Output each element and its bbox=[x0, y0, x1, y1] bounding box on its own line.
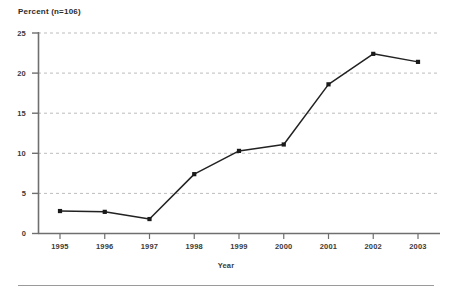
x-tick-label: 2000 bbox=[264, 242, 304, 251]
gridlines-group bbox=[38, 33, 440, 193]
data-point-marker bbox=[282, 142, 286, 146]
x-tick-label: 1999 bbox=[219, 242, 259, 251]
x-tick-label: 2001 bbox=[309, 242, 349, 251]
y-tick-label: 25 bbox=[4, 29, 26, 38]
y-tick-marks-group bbox=[32, 33, 39, 234]
y-tick-label: 10 bbox=[4, 149, 26, 158]
data-point-marker bbox=[147, 217, 151, 221]
x-tick-label: 1997 bbox=[130, 242, 170, 251]
data-point-marker bbox=[192, 172, 196, 176]
x-tick-label: 1995 bbox=[40, 242, 80, 251]
data-point-marker bbox=[416, 60, 420, 64]
data-point-marker bbox=[103, 210, 107, 214]
chart-figure: Percent (n=106) 0510152025 1995199619971… bbox=[0, 0, 452, 297]
data-point-marker bbox=[237, 149, 241, 153]
y-tick-label: 0 bbox=[4, 229, 26, 238]
line-chart-plot bbox=[0, 0, 452, 297]
y-tick-label: 20 bbox=[4, 69, 26, 78]
y-tick-label: 5 bbox=[4, 189, 26, 198]
data-point-marker bbox=[58, 209, 62, 213]
x-tick-label: 2003 bbox=[398, 242, 438, 251]
y-tick-label: 15 bbox=[4, 109, 26, 118]
data-line-series-percent bbox=[60, 54, 418, 219]
footer-divider bbox=[18, 285, 434, 286]
x-tick-label: 1996 bbox=[85, 242, 125, 251]
x-axis-title: Year bbox=[0, 261, 452, 270]
x-tick-label: 2002 bbox=[353, 242, 393, 251]
x-tick-label: 1998 bbox=[174, 242, 214, 251]
data-markers-group bbox=[58, 52, 420, 221]
axes-group bbox=[38, 32, 440, 234]
x-tick-marks-group bbox=[60, 234, 418, 240]
data-point-marker bbox=[326, 82, 330, 86]
data-point-marker bbox=[371, 52, 375, 56]
